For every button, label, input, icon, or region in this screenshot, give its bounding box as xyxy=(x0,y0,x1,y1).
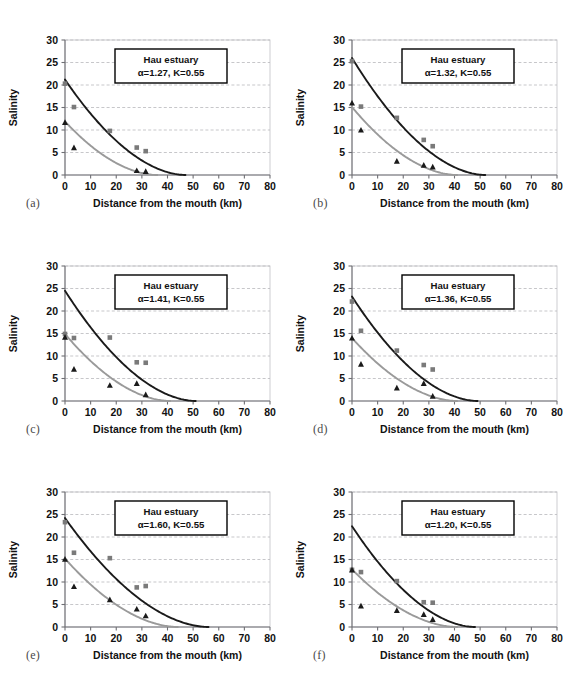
panel-label: (c) xyxy=(26,422,40,437)
legend-params: α=1.27, K=0.55 xyxy=(138,67,205,78)
legend-title: Hau estuary xyxy=(431,54,487,65)
plot-area: 05101520253001020304050607080SalinityDis… xyxy=(287,0,574,225)
legend-title: Hau estuary xyxy=(144,54,200,65)
y-tick-label-20: 20 xyxy=(333,305,345,317)
y-tick-label-5: 5 xyxy=(52,146,58,158)
y-axis-title: Salinity xyxy=(294,315,306,353)
marker-square xyxy=(108,129,113,134)
legend-title: Hau estuary xyxy=(144,506,200,517)
legend-title: Hau estuary xyxy=(431,506,487,517)
x-tick-label-40: 40 xyxy=(449,406,461,418)
x-axis-title: Distance from the mouth (km) xyxy=(380,423,529,435)
panel-label: (b) xyxy=(313,196,328,211)
y-tick-label-25: 25 xyxy=(46,282,58,294)
x-tick-label-40: 40 xyxy=(449,180,461,192)
legend-params: α=1.36, K=0.55 xyxy=(425,293,492,304)
y-tick-label-10: 10 xyxy=(333,576,345,588)
x-tick-label-80: 80 xyxy=(264,406,276,418)
legend-title: Hau estuary xyxy=(431,280,487,291)
x-tick-label-80: 80 xyxy=(551,180,563,192)
plot-area: 05101520253001020304050607080SalinityDis… xyxy=(0,226,287,451)
y-tick-label-30: 30 xyxy=(46,486,58,498)
chart-panel-c: 05101520253001020304050607080SalinityDis… xyxy=(0,226,287,451)
plot-area: 05101520253001020304050607080SalinityDis… xyxy=(287,226,574,451)
x-tick-label-70: 70 xyxy=(239,406,251,418)
x-tick-label-10: 10 xyxy=(85,180,97,192)
marker-square xyxy=(134,585,139,590)
marker-square xyxy=(395,116,400,121)
x-tick-label-0: 0 xyxy=(349,180,355,192)
x-tick-label-40: 40 xyxy=(162,406,174,418)
x-tick-label-70: 70 xyxy=(526,406,538,418)
marker-square xyxy=(143,360,148,365)
y-tick-label-30: 30 xyxy=(333,34,345,46)
y-tick-label-25: 25 xyxy=(333,282,345,294)
marker-square xyxy=(430,144,435,149)
x-tick-label-20: 20 xyxy=(397,180,409,192)
x-tick-label-20: 20 xyxy=(110,406,122,418)
x-tick-label-0: 0 xyxy=(62,406,68,418)
chart-panel-b: 05101520253001020304050607080SalinityDis… xyxy=(287,0,574,225)
marker-square xyxy=(72,550,77,555)
x-tick-label-20: 20 xyxy=(110,180,122,192)
x-tick-label-20: 20 xyxy=(397,406,409,418)
marker-square xyxy=(108,556,113,561)
x-tick-label-0: 0 xyxy=(62,180,68,192)
y-tick-label-10: 10 xyxy=(46,576,58,588)
y-tick-label-10: 10 xyxy=(46,350,58,362)
x-tick-label-10: 10 xyxy=(85,406,97,418)
x-tick-label-0: 0 xyxy=(62,632,68,644)
x-tick-label-30: 30 xyxy=(423,632,435,644)
y-tick-label-20: 20 xyxy=(46,305,58,317)
chart-panel-e: 05101520253001020304050607080SalinityDis… xyxy=(0,452,287,677)
x-axis-title: Distance from the mouth (km) xyxy=(380,197,529,209)
marker-square xyxy=(63,81,68,86)
marker-square xyxy=(143,584,148,589)
y-tick-label-5: 5 xyxy=(52,372,58,384)
marker-square xyxy=(430,600,435,605)
x-axis-title: Distance from the mouth (km) xyxy=(93,197,242,209)
marker-square xyxy=(108,335,113,340)
legend-params: α=1.20, K=0.55 xyxy=(425,519,492,530)
y-axis-title: Salinity xyxy=(294,89,306,127)
x-axis-title: Distance from the mouth (km) xyxy=(93,423,242,435)
x-tick-label-0: 0 xyxy=(349,406,355,418)
marker-square xyxy=(350,59,355,64)
y-tick-label-15: 15 xyxy=(46,327,58,339)
x-tick-label-30: 30 xyxy=(136,180,148,192)
figure-root: 05101520253001020304050607080SalinityDis… xyxy=(0,0,574,677)
x-tick-label-60: 60 xyxy=(213,180,225,192)
x-tick-label-70: 70 xyxy=(239,180,251,192)
panel-label: (e) xyxy=(26,648,40,663)
y-tick-label-5: 5 xyxy=(339,146,345,158)
y-tick-label-20: 20 xyxy=(46,531,58,543)
chart-panel-a: 05101520253001020304050607080SalinityDis… xyxy=(0,0,287,225)
y-tick-label-30: 30 xyxy=(333,486,345,498)
x-tick-label-30: 30 xyxy=(423,180,435,192)
x-tick-label-40: 40 xyxy=(162,632,174,644)
x-tick-label-0: 0 xyxy=(349,632,355,644)
x-tick-label-60: 60 xyxy=(500,632,512,644)
x-tick-label-70: 70 xyxy=(526,632,538,644)
x-tick-label-50: 50 xyxy=(187,632,199,644)
x-tick-label-30: 30 xyxy=(423,406,435,418)
x-tick-label-70: 70 xyxy=(239,632,251,644)
y-tick-label-10: 10 xyxy=(333,124,345,136)
y-tick-label-5: 5 xyxy=(339,598,345,610)
marker-square xyxy=(72,336,77,341)
y-tick-label-0: 0 xyxy=(339,621,345,633)
x-tick-label-60: 60 xyxy=(500,180,512,192)
panel-label: (a) xyxy=(26,196,40,211)
x-tick-label-50: 50 xyxy=(474,180,486,192)
x-tick-label-10: 10 xyxy=(372,406,384,418)
y-tick-label-20: 20 xyxy=(333,531,345,543)
x-tick-label-60: 60 xyxy=(213,406,225,418)
marker-square xyxy=(350,299,355,304)
y-tick-label-15: 15 xyxy=(333,101,345,113)
y-tick-label-10: 10 xyxy=(46,124,58,136)
marker-square xyxy=(359,329,364,334)
y-tick-label-30: 30 xyxy=(46,34,58,46)
chart-panel-f: 05101520253001020304050607080SalinityDis… xyxy=(287,452,574,677)
x-tick-label-50: 50 xyxy=(474,406,486,418)
x-tick-label-70: 70 xyxy=(526,180,538,192)
